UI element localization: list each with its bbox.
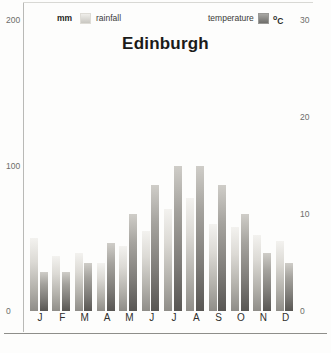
bar-temperature-7 [196, 166, 204, 312]
bar-temperature-0 [40, 272, 48, 311]
x-axis-label-f-1: F [52, 312, 72, 323]
bar-temperature-10 [263, 253, 271, 311]
bar-temperature-3 [107, 243, 115, 311]
bar-rainfall-3 [97, 263, 105, 311]
bar-temperature-8 [218, 185, 226, 311]
bar-group-j-0 [30, 20, 50, 311]
x-axis-label-a-7: A [186, 312, 206, 323]
bar-temperature-5 [151, 185, 159, 311]
bar-rainfall-2 [75, 253, 83, 311]
bar-rainfall-7 [186, 198, 194, 311]
chart-figure: mm rainfall temperature oC Edinburgh 200… [0, 0, 331, 353]
bar-rainfall-6 [164, 209, 172, 311]
x-axis-tick-labels: JFMAMJJASOND [30, 312, 298, 328]
bar-group-j-6 [164, 20, 184, 311]
y-axis-left-tick-100: 100 [6, 161, 24, 171]
x-axis-label-m-4: M [119, 312, 139, 323]
bar-temperature-1 [62, 272, 70, 311]
bar-temperature-2 [84, 263, 92, 312]
y-axis-right-tick-20: 20 [300, 112, 322, 122]
x-axis-label-a-3: A [97, 312, 117, 323]
x-axis-label-s-8: S [209, 312, 229, 323]
y-axis-left-tick-200: 200 [6, 15, 24, 25]
bar-rainfall-5 [142, 231, 150, 311]
y-axis-left-tick-0: 0 [6, 306, 24, 316]
bar-rainfall-8 [209, 224, 217, 311]
bar-temperature-9 [241, 214, 249, 311]
plot-area [30, 20, 298, 311]
bar-temperature-11 [285, 263, 293, 312]
y-axis-right-tick-0: 0 [300, 306, 322, 316]
bar-rainfall-10 [253, 235, 261, 311]
bar-group-n-10 [253, 20, 273, 311]
bar-group-m-2 [75, 20, 95, 311]
bar-rainfall-4 [119, 246, 127, 311]
bar-group-j-5 [142, 20, 162, 311]
y-axis-right-tick-30: 30 [300, 15, 322, 25]
bar-group-a-7 [186, 20, 206, 311]
bar-group-a-3 [97, 20, 117, 311]
x-axis-label-d-11: D [276, 312, 296, 323]
bar-rainfall-0 [30, 238, 38, 311]
x-axis-label-j-0: J [30, 312, 50, 323]
y-axis-right-tick-10: 10 [300, 209, 322, 219]
bar-group-m-4 [119, 20, 139, 311]
bar-group-o-9 [231, 20, 251, 311]
figure-bottom-rule [4, 333, 327, 334]
bar-rainfall-9 [231, 227, 239, 311]
bar-group-s-8 [209, 20, 229, 311]
x-axis-label-j-6: J [164, 312, 184, 323]
x-axis-label-n-10: N [253, 312, 273, 323]
x-axis-label-j-5: J [142, 312, 162, 323]
bar-group-f-1 [52, 20, 72, 311]
figure-top-rule [23, 2, 313, 3]
bar-rainfall-1 [52, 256, 60, 311]
x-axis-label-o-9: O [231, 312, 251, 323]
bar-group-d-11 [276, 20, 296, 311]
x-axis-label-m-2: M [75, 312, 95, 323]
bar-rainfall-11 [276, 241, 284, 311]
bar-temperature-6 [174, 166, 182, 312]
bar-temperature-4 [129, 214, 137, 311]
